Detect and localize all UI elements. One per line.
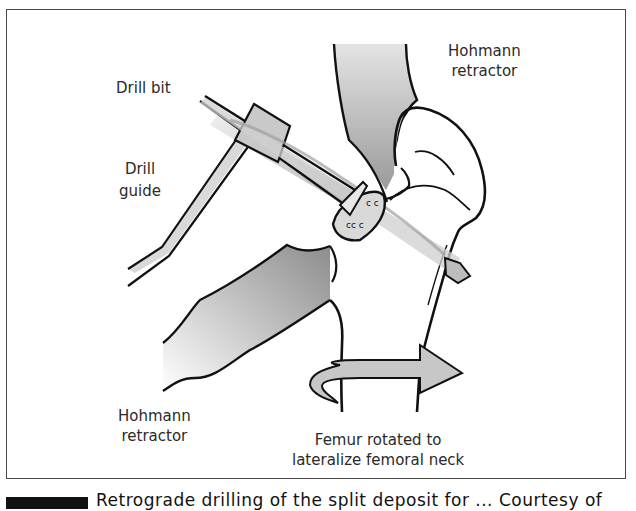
label-drill-bit: Drill bit — [116, 78, 171, 98]
label-drill-guide: Drill guide — [110, 158, 170, 202]
label-hohmann-retractor-top: Hohmann retractor — [448, 41, 521, 81]
figure-caption: Retrograde drilling of the split deposit… — [96, 489, 602, 511]
caption-label-bar — [6, 497, 88, 509]
svg-text:ᴄ ᴄ: ᴄ ᴄ — [366, 198, 379, 208]
label-hohmann-retractor-bottom: Hohmann retractor — [118, 406, 191, 446]
svg-text:ᴄᴄ ᴄ: ᴄᴄ ᴄ — [346, 220, 364, 230]
label-femur-rotation: Femur rotated to lateralize femoral neck — [292, 430, 464, 470]
hohmann-retractor-bottom — [163, 245, 330, 391]
